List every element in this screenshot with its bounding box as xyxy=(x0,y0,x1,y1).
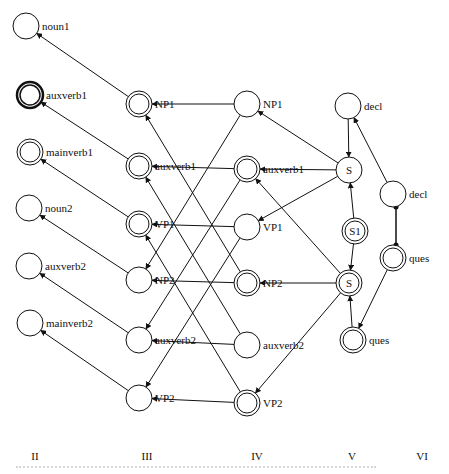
node-II_noun2: noun2 xyxy=(16,195,73,221)
edge-V_S_top-to-IV_VP1 xyxy=(258,176,337,220)
nodes-layer: noun1auxverb1mainverb1noun2auxverb2mainv… xyxy=(13,13,429,416)
column-label-VI: VI xyxy=(416,450,428,462)
node-circle-icon xyxy=(380,245,406,271)
node-circle-icon xyxy=(16,253,42,279)
edge-V_decl-to-V_S_top xyxy=(348,119,349,157)
edge-IV_VP2-to-III_VP1 xyxy=(146,235,241,392)
node-III_auxverb2: auxverb2 xyxy=(126,327,196,353)
node-III_auxverb1: auxverb1 xyxy=(126,153,196,179)
column-label-III: III xyxy=(142,450,153,462)
node-III_VP2: VP2 xyxy=(126,385,175,411)
node-circle-icon xyxy=(234,390,260,416)
node-label: S xyxy=(346,277,352,289)
node-circle-icon xyxy=(126,327,152,353)
node-label: VP2 xyxy=(155,392,175,404)
node-II_auxverb2: auxverb2 xyxy=(16,253,86,279)
column-label-IV: IV xyxy=(251,450,263,462)
edge-III_NP1-to-II_noun1 xyxy=(37,33,129,96)
node-II_noun1: noun1 xyxy=(13,13,70,39)
node-circle-icon xyxy=(17,139,43,165)
node-IV_NP2: NP2 xyxy=(234,270,283,296)
network-diagram: noun1auxverb1mainverb1noun2auxverb2mainv… xyxy=(0,0,449,474)
node-label: noun2 xyxy=(45,202,73,214)
node-label: decl xyxy=(364,100,382,112)
node-label: NP1 xyxy=(155,98,175,110)
node-label: ques xyxy=(369,334,389,346)
node-circle-icon xyxy=(234,156,260,182)
edge-VI_ques-to-V_ques xyxy=(359,270,388,329)
edge-V_S1-to-V_S_top xyxy=(350,183,353,218)
node-label: NP2 xyxy=(263,277,283,289)
node-label: auxverb2 xyxy=(45,260,86,272)
node-V_S_top: S xyxy=(336,157,362,183)
node-VI_decl: decl xyxy=(380,181,427,207)
node-circle-icon xyxy=(234,214,260,240)
edge-IV_VP1-to-III_VP2 xyxy=(146,238,240,387)
node-label: ques xyxy=(409,252,429,264)
edge-IV_auxverb2-to-III_auxverb1 xyxy=(146,177,241,334)
node-circle-icon xyxy=(17,310,43,336)
node-label: auxverb1 xyxy=(155,160,196,172)
node-label: decl xyxy=(409,188,427,200)
node-label: auxverb1 xyxy=(46,89,87,101)
node-VI_ques: ques xyxy=(380,245,429,271)
node-circle-icon xyxy=(340,327,366,353)
node-II_mainverb2: mainverb2 xyxy=(17,310,93,336)
node-label: auxverb2 xyxy=(263,339,304,351)
edge-IV_auxverb1-to-III_auxverb2 xyxy=(146,180,240,329)
node-label: VP2 xyxy=(263,397,283,409)
node-label: S1 xyxy=(349,225,361,237)
node-label: VP1 xyxy=(155,218,175,230)
node-circle-icon xyxy=(234,91,260,117)
node-circle-icon xyxy=(335,93,361,119)
node-IV_auxverb2: auxverb2 xyxy=(234,332,304,358)
node-circle-icon xyxy=(126,91,152,117)
node-V_S_bottom: S xyxy=(336,270,362,296)
node-label: mainverb1 xyxy=(46,146,93,158)
node-III_NP1: NP1 xyxy=(126,91,175,117)
node-label: noun1 xyxy=(42,20,70,32)
column-labels: IIIIIIVVVI xyxy=(31,450,428,462)
node-IV_auxverb1: auxverb1 xyxy=(234,156,304,182)
edge-V_ques-to-V_S_bottom xyxy=(350,296,352,327)
node-V_ques: ques xyxy=(340,327,389,353)
node-II_mainverb1: mainverb1 xyxy=(17,139,93,165)
node-label: NP1 xyxy=(263,98,283,110)
column-label-V: V xyxy=(348,450,356,462)
node-label: S xyxy=(346,164,352,176)
node-circle-icon xyxy=(16,195,42,221)
node-label: auxverb2 xyxy=(155,334,196,346)
node-circle-icon xyxy=(126,385,152,411)
column-label-II: II xyxy=(31,450,39,462)
edge-V_S1-to-V_S_bottom xyxy=(350,244,353,270)
node-circle-icon xyxy=(380,181,406,207)
node-circle-icon xyxy=(126,267,152,293)
node-circle-icon xyxy=(234,332,260,358)
node-V_S1: S1 xyxy=(342,218,368,244)
node-label: VP1 xyxy=(263,221,283,233)
node-IV_VP1: VP1 xyxy=(234,214,283,240)
node-circle-icon xyxy=(126,153,152,179)
node-IV_NP1: NP1 xyxy=(234,91,283,117)
node-label: mainverb2 xyxy=(46,317,93,329)
node-circle-icon xyxy=(126,211,152,237)
node-circle-icon xyxy=(17,82,43,108)
node-circle-icon xyxy=(234,270,260,296)
node-IV_VP2: VP2 xyxy=(234,390,283,416)
node-label: NP2 xyxy=(155,274,175,286)
node-II_auxverb1: auxverb1 xyxy=(17,82,87,108)
edge-III_VP2-to-II_mainverb2 xyxy=(41,330,129,390)
node-label: auxverb1 xyxy=(263,163,304,175)
figure-caption-cutoff xyxy=(16,466,376,472)
edge-V_S_top-to-IV_NP1 xyxy=(258,111,338,163)
node-circle-icon xyxy=(13,13,39,39)
node-V_decl: decl xyxy=(335,93,382,119)
